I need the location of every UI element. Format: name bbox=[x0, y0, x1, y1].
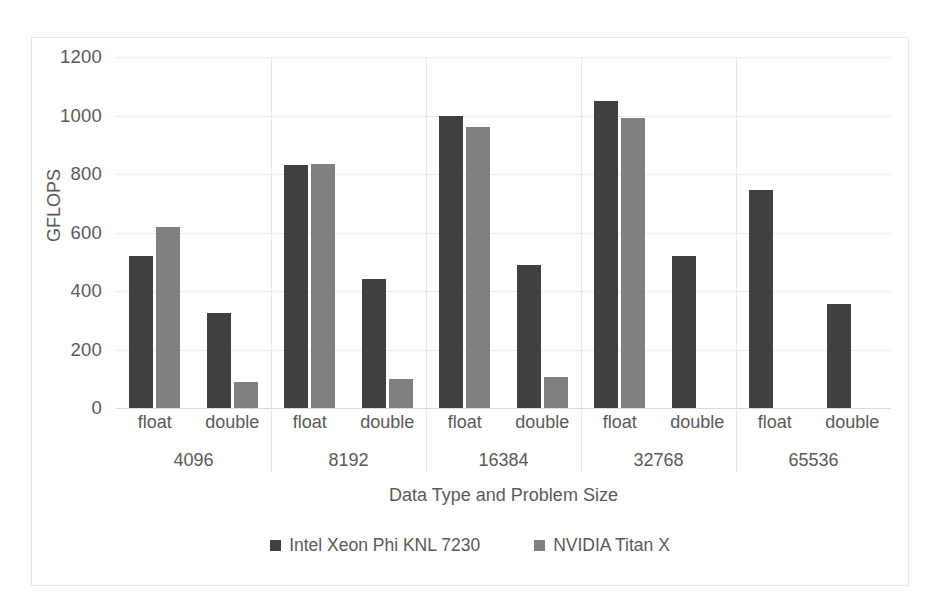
bar-intel-xeon-phi-knl-7230-16384-float bbox=[439, 116, 463, 409]
x-tick-label-double-4096: double bbox=[194, 412, 272, 432]
group-separator-16384 bbox=[426, 57, 427, 472]
bar-intel-xeon-phi-knl-7230-65536-double bbox=[827, 304, 851, 408]
x-group-label-32768: 32768 bbox=[581, 450, 736, 470]
bar-nvidia-titan-x-4096-float bbox=[156, 227, 180, 408]
legend-square-swatch-0 bbox=[270, 540, 281, 551]
y-tick-label-600: 600 bbox=[30, 224, 102, 243]
legend-label-1: NVIDIA Titan X bbox=[553, 535, 670, 556]
bar-intel-xeon-phi-knl-7230-4096-double bbox=[207, 313, 231, 408]
x-tick-label-double-8192: double bbox=[349, 412, 427, 432]
bar-nvidia-titan-x-32768-float bbox=[621, 118, 645, 408]
chart-container: 020040060080010001200 GFLOPS floatdouble… bbox=[0, 0, 940, 603]
x-group-label-16384: 16384 bbox=[426, 450, 581, 470]
x-tick-label-double-65536: double bbox=[814, 412, 892, 432]
x-group-label-8192: 8192 bbox=[271, 450, 426, 470]
x-tick-label-float-4096: float bbox=[116, 412, 194, 432]
x-tick-label-double-32768: double bbox=[659, 412, 737, 432]
legend-item-1[interactable]: NVIDIA Titan X bbox=[534, 535, 670, 556]
y-tick-label-0: 0 bbox=[30, 399, 102, 418]
bar-nvidia-titan-x-16384-double bbox=[544, 377, 568, 408]
legend-square-swatch-1 bbox=[534, 540, 545, 551]
y-axis-title: GFLOPS bbox=[44, 146, 65, 266]
bar-nvidia-titan-x-4096-double bbox=[234, 382, 258, 408]
x-tick-label-float-16384: float bbox=[426, 412, 504, 432]
y-tick-label-800: 800 bbox=[30, 165, 102, 184]
legend-label-0: Intel Xeon Phi KNL 7230 bbox=[289, 535, 480, 556]
group-separator-8192 bbox=[271, 57, 272, 472]
x-tick-label-float-8192: float bbox=[271, 412, 349, 432]
group-separator-65536 bbox=[736, 57, 737, 472]
bar-intel-xeon-phi-knl-7230-16384-double bbox=[517, 265, 541, 408]
bar-nvidia-titan-x-16384-float bbox=[466, 127, 490, 408]
x-tick-label-float-32768: float bbox=[581, 412, 659, 432]
x-tick-label-float-65536: float bbox=[736, 412, 814, 432]
bars-layer bbox=[116, 57, 891, 408]
x-group-label-4096: 4096 bbox=[116, 450, 271, 470]
x-tick-label-double-16384: double bbox=[504, 412, 582, 432]
y-tick-label-1200: 1200 bbox=[30, 48, 102, 67]
bar-intel-xeon-phi-knl-7230-8192-float bbox=[284, 165, 308, 408]
bar-intel-xeon-phi-knl-7230-4096-float bbox=[129, 256, 153, 408]
bar-intel-xeon-phi-knl-7230-8192-double bbox=[362, 279, 386, 408]
chart-legend: Intel Xeon Phi KNL 7230NVIDIA Titan X bbox=[0, 535, 940, 556]
x-group-label-65536: 65536 bbox=[736, 450, 891, 470]
x-axis-title: Data Type and Problem Size bbox=[116, 485, 891, 506]
bar-intel-xeon-phi-knl-7230-32768-float bbox=[594, 101, 618, 408]
bar-intel-xeon-phi-knl-7230-65536-float bbox=[749, 190, 773, 408]
legend-item-0[interactable]: Intel Xeon Phi KNL 7230 bbox=[270, 535, 480, 556]
y-tick-label-1000: 1000 bbox=[30, 107, 102, 126]
y-tick-label-400: 400 bbox=[30, 282, 102, 301]
y-tick-label-200: 200 bbox=[30, 341, 102, 360]
bar-intel-xeon-phi-knl-7230-32768-double bbox=[672, 256, 696, 408]
group-separator-32768 bbox=[581, 57, 582, 472]
bar-nvidia-titan-x-8192-float bbox=[311, 164, 335, 408]
bar-nvidia-titan-x-8192-double bbox=[389, 379, 413, 408]
x-axis-labels: floatdoublefloatdoublefloatdoublefloatdo… bbox=[116, 412, 891, 482]
